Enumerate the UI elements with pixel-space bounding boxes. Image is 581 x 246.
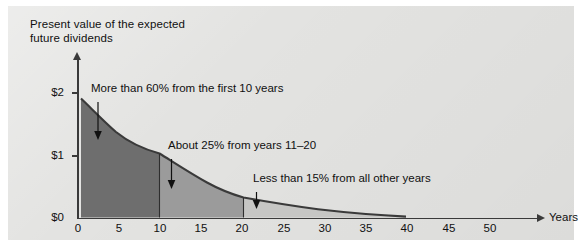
x-tick-label-45: 45 [436,222,462,234]
annotation-label-years-11-20: About 25% from years 11–20 [168,139,316,151]
annotation-label-all-other-years: Less than 15% from all other years [253,172,431,184]
x-tick-label-35: 35 [353,222,379,234]
x-tick-label-25: 25 [271,222,297,234]
x-tick-label-40: 40 [394,222,420,234]
x-tick-label-20: 20 [229,222,255,234]
x-tick-label-0: 0 [65,222,91,234]
area-region-1 [81,99,160,218]
x-axis-label: Years [549,211,578,223]
x-tick-label-10: 10 [147,222,173,234]
x-tick-label-5: 5 [106,222,132,234]
annotation-label-first-10-years: More than 60% from the first 10 years [91,82,283,94]
figure-canvas: Present value of the expected future div… [0,0,581,246]
x-tick-label-30: 30 [312,222,338,234]
x-tick-label-15: 15 [188,222,214,234]
x-tick-label-50: 50 [477,222,503,234]
chart-panel: Present value of the expected future div… [8,6,574,240]
chart-plot-area [8,6,574,240]
